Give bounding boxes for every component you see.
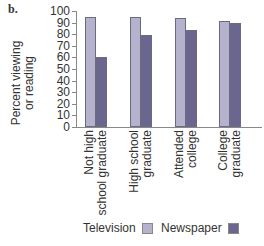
y-tick bbox=[72, 115, 76, 116]
y-tick bbox=[72, 46, 76, 47]
y-tick-label: 60 bbox=[40, 51, 70, 63]
bar-television bbox=[85, 17, 96, 127]
bar-television bbox=[130, 17, 141, 127]
bar-newspaper bbox=[141, 35, 152, 127]
legend-label-newspaper: Newspaper bbox=[161, 221, 222, 235]
y-tick-label: 10 bbox=[40, 109, 70, 121]
x-axis bbox=[76, 127, 262, 128]
y-tick-label: 70 bbox=[40, 40, 70, 52]
y-tick-label: 40 bbox=[40, 75, 70, 87]
y-tick bbox=[72, 23, 76, 24]
bar-newspaper bbox=[96, 57, 107, 127]
x-tick-label: Attendedcollege bbox=[173, 130, 213, 220]
y-tick bbox=[72, 127, 76, 128]
legend-swatch-newspaper bbox=[228, 223, 239, 234]
bar-television bbox=[175, 18, 186, 127]
y-tick bbox=[72, 34, 76, 35]
y-tick bbox=[72, 81, 76, 82]
y-tick bbox=[72, 57, 76, 58]
y-tick-label: 0 bbox=[40, 121, 70, 133]
y-tick bbox=[72, 11, 76, 12]
y-tick-label: 100 bbox=[40, 5, 70, 17]
y-axis-label: Percent viewing or reading bbox=[10, 28, 36, 138]
x-tick-label: Not highschool graduate bbox=[83, 130, 123, 220]
y-tick bbox=[72, 92, 76, 93]
y-axis bbox=[76, 11, 77, 127]
y-tick bbox=[72, 104, 76, 105]
legend-item-newspaper: Newspaper bbox=[161, 221, 239, 235]
bar-newspaper bbox=[230, 23, 241, 127]
legend-item-television: Television bbox=[83, 221, 153, 235]
y-axis-label-line-2: or reading bbox=[23, 28, 36, 138]
y-tick-label: 20 bbox=[40, 98, 70, 110]
x-tick-label: High schoolgraduate bbox=[128, 130, 168, 220]
legend-label-television: Television bbox=[83, 221, 136, 235]
y-tick-label: 90 bbox=[40, 17, 70, 29]
bar-newspaper bbox=[186, 30, 197, 127]
legend-swatch-television bbox=[142, 223, 153, 234]
y-tick-label: 50 bbox=[40, 63, 70, 75]
y-tick-label: 30 bbox=[40, 86, 70, 98]
panel-label: b. bbox=[8, 2, 18, 17]
x-tick-label: Collegegraduate bbox=[217, 130, 257, 220]
y-tick-label: 80 bbox=[40, 28, 70, 40]
y-tick bbox=[72, 69, 76, 70]
bar-television bbox=[219, 21, 230, 127]
